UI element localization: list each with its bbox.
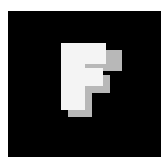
f-middle-bar xyxy=(85,68,103,86)
letter-f-tile xyxy=(8,11,161,157)
f-stem xyxy=(61,43,85,110)
